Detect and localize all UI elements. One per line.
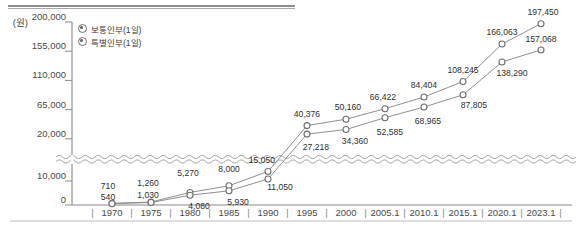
y-axis-tick-label: 110,000 — [20, 69, 66, 80]
y-axis-tick-label: 200,000 — [20, 11, 66, 22]
data-point-marker — [343, 116, 349, 122]
data-point-value-label: 108,245 — [441, 65, 485, 75]
x-axis-separator: | — [557, 207, 565, 218]
data-point-marker — [382, 106, 388, 112]
data-point-value-label: 27,218 — [294, 142, 338, 152]
data-point-marker — [460, 79, 466, 85]
data-point-marker — [421, 104, 427, 110]
data-point-value-label: 5,930 — [216, 197, 260, 207]
x-axis-separator: | — [89, 207, 97, 218]
data-point-value-label: 710 — [86, 181, 130, 191]
data-point-value-label: 40,376 — [285, 109, 329, 119]
data-point-marker — [187, 192, 193, 198]
data-point-marker — [304, 131, 310, 137]
data-point-value-label: 4,080 — [177, 201, 221, 211]
data-point-value-label: 540 — [86, 192, 130, 202]
legend-marker-circle-icon — [78, 24, 87, 33]
chart-legend: 보통인부(1일) 특별인부(1일) — [78, 23, 141, 49]
data-point-value-label: 50,160 — [326, 102, 370, 112]
legend-label-botong: 보통인부(1일) — [91, 23, 141, 35]
data-point-value-label: 34,360 — [333, 136, 377, 146]
y-axis-tick-label: 65,000 — [20, 99, 66, 110]
data-point-marker — [382, 115, 388, 121]
data-point-value-label: 84,404 — [402, 80, 446, 90]
data-point-value-label: 66,422 — [361, 92, 405, 102]
data-point-marker — [538, 47, 544, 53]
data-point-value-label: 11,050 — [258, 182, 302, 192]
data-point-value-label: 68,965 — [406, 116, 450, 126]
y-axis-tick-label: 10,000 — [20, 170, 66, 181]
data-point-value-label: 157,068 — [519, 34, 563, 44]
data-point-marker — [499, 59, 505, 65]
data-point-value-label: 87,805 — [452, 100, 496, 110]
data-point-marker — [460, 92, 466, 98]
data-point-marker — [499, 41, 505, 47]
data-point-value-label: 1,260 — [126, 178, 170, 188]
data-point-value-label: 5,270 — [166, 168, 210, 178]
chart-root: (원) 200,000155,000110,00065,00020,00010,… — [0, 0, 578, 237]
data-point-value-label: 166,063 — [480, 27, 524, 37]
data-point-marker — [343, 127, 349, 133]
y-axis-tick-label: 20,000 — [20, 128, 66, 139]
legend-item-teukbyeol: 특별인부(1일) — [78, 36, 141, 47]
data-point-marker — [421, 94, 427, 100]
data-point-marker — [304, 123, 310, 129]
y-axis-tick-label: 0 — [20, 194, 66, 205]
data-point-marker — [538, 21, 544, 27]
legend-marker-circle-icon — [78, 37, 87, 46]
legend-label-teukbyeol: 특별인부(1일) — [91, 36, 141, 48]
data-point-value-label: 138,290 — [490, 68, 534, 78]
data-point-value-label: 197,450 — [521, 7, 565, 17]
data-point-value-label: 15,050 — [240, 155, 284, 165]
data-point-marker — [148, 200, 154, 206]
data-point-marker — [226, 188, 232, 194]
y-axis-tick-label: 155,000 — [20, 40, 66, 51]
data-point-value-label: 52,585 — [368, 127, 412, 137]
data-point-value-label: 1,030 — [126, 190, 170, 200]
legend-item-botong: 보통인부(1일) — [78, 23, 141, 34]
data-point-marker — [265, 168, 271, 174]
